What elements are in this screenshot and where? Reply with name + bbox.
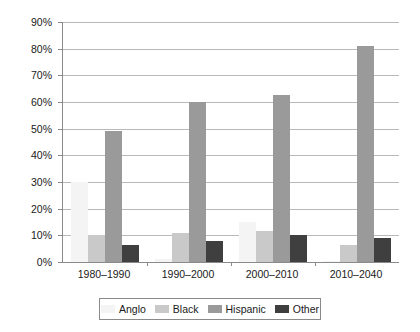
bar-group-bars [231, 22, 315, 262]
legend-swatch-icon [208, 305, 222, 313]
y-tick-label: 50% [0, 124, 52, 134]
bar-black [256, 231, 273, 262]
bar-black [88, 235, 105, 262]
x-tick-label: 2010–2040 [314, 268, 398, 280]
bar-hispanic [357, 46, 374, 262]
x-tick-label: 2000–2010 [230, 268, 314, 280]
y-tick-label: 90% [0, 17, 52, 27]
legend-swatch-icon [101, 305, 115, 313]
y-tick-label: 20% [0, 204, 52, 214]
bar-anglo [71, 182, 88, 262]
legend-item-hispanic: Hispanic [208, 304, 266, 315]
legend-item-other: Other [275, 304, 319, 315]
bar-group-bars [147, 22, 231, 262]
legend-item-black: Black [155, 304, 199, 315]
bar-black [340, 245, 357, 262]
bar-group [231, 22, 315, 262]
bar-anglo [239, 222, 256, 262]
bar-other [374, 238, 391, 262]
bar-hispanic [189, 102, 206, 262]
y-tick-mark [58, 262, 63, 263]
x-tick-label: 1990–2000 [146, 268, 230, 280]
legend-label: Hispanic [226, 304, 266, 315]
legend-item-anglo: Anglo [101, 304, 146, 315]
y-tick-label: 60% [0, 97, 52, 107]
legend-label: Black [173, 304, 199, 315]
y-tick-label: 70% [0, 70, 52, 80]
legend-label: Anglo [119, 304, 146, 315]
plot-area [62, 22, 399, 263]
bar-anglo [323, 261, 340, 262]
bar-group [63, 22, 147, 262]
bar-hispanic [105, 131, 122, 262]
bar-chart: 0%10%20%30%40%50%60%70%80%90% 1980–19901… [0, 0, 420, 332]
x-tick-mark [315, 262, 316, 266]
x-tick-mark [231, 262, 232, 266]
bar-black [172, 233, 189, 262]
bar-group [147, 22, 231, 262]
legend-label: Other [293, 304, 319, 315]
legend-swatch-icon [275, 305, 289, 313]
bar-group [315, 22, 399, 262]
legend-swatch-icon [155, 305, 169, 313]
x-tick-label: 1980–1990 [62, 268, 146, 280]
chart-legend: AngloBlackHispanicOther [99, 298, 321, 320]
y-tick-label: 0% [0, 257, 52, 267]
bar-group-bars [63, 22, 147, 262]
y-axis: 0%10%20%30%40%50%60%70%80%90% [0, 0, 56, 332]
y-tick-label: 40% [0, 150, 52, 160]
bar-group-bars [315, 22, 399, 262]
y-tick-label: 80% [0, 44, 52, 54]
bar-hispanic [273, 95, 290, 262]
y-tick-label: 10% [0, 230, 52, 240]
bar-anglo [155, 259, 172, 262]
bar-other [122, 245, 139, 262]
y-tick-label: 30% [0, 177, 52, 187]
bar-other [206, 241, 223, 262]
x-tick-mark [147, 262, 148, 266]
bar-other [290, 235, 307, 262]
